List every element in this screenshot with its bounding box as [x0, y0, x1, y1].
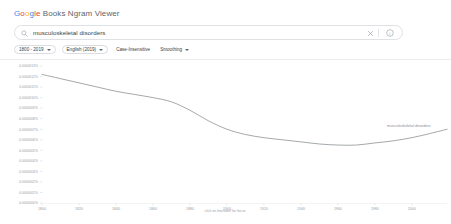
chip-toolbar: 1800 - 2019 English (2019) Case-Insensit…	[14, 45, 191, 54]
x-axis-tick-label: 2000	[408, 207, 416, 211]
y-axis: 0.0000013%0.0000012%0.0000011%0.0000010%…	[19, 64, 43, 205]
chevron-down-icon	[185, 49, 189, 51]
page-title: Google Books Ngram Viewer	[14, 9, 120, 18]
y-axis-tick-label: 0.0000002%	[19, 180, 38, 184]
y-axis-tick-label: 0.0000000%	[19, 201, 38, 205]
x-axis-tick-label: 1840	[112, 207, 120, 211]
series-line[interactable]	[42, 74, 447, 145]
product-name: Books Ngram Viewer	[40, 9, 119, 18]
case-insensitive-toggle[interactable]: Case-Insensitive	[114, 45, 152, 54]
y-axis-tick-label: 0.0000005%	[19, 149, 38, 153]
search-icon	[21, 30, 28, 37]
chart-hint-text: click on line/label for focus	[205, 209, 246, 213]
year-range-select[interactable]: 1800 - 2019	[14, 45, 56, 54]
x-axis-tick-label: 1920	[260, 207, 268, 211]
svg-text:i: i	[389, 31, 391, 36]
smoothing-select[interactable]: Smoothing	[158, 45, 191, 54]
y-axis-tick-label: 0.0000013%	[19, 64, 38, 68]
series-label[interactable]: musculoskeletal disorders	[387, 124, 431, 128]
ngram-viewer-page: Google Books Ngram Viewer musculoskeleta…	[0, 0, 451, 224]
chevron-down-icon	[47, 49, 51, 51]
search-input[interactable]: musculoskeletal disorders	[33, 26, 358, 39]
smoothing-label: Smoothing	[160, 45, 182, 54]
y-axis-tick-label: 0.0000011%	[19, 85, 38, 89]
chevron-down-icon	[99, 49, 103, 51]
corpus-label: English (2019)	[67, 45, 97, 54]
y-axis-tick-label: 0.0000012%	[19, 75, 38, 79]
y-axis-tick-label: 0.0000003%	[19, 170, 38, 174]
y-axis-tick-label: 0.0000006%	[19, 138, 38, 142]
search-divider	[378, 29, 379, 37]
corpus-select[interactable]: English (2019)	[62, 45, 109, 54]
y-axis-tick-label: 0.0000008%	[19, 117, 38, 121]
close-icon[interactable]	[367, 30, 374, 37]
y-axis-tick-label: 0.0000009%	[19, 106, 38, 110]
search-bar[interactable]: musculoskeletal disorders i	[14, 25, 403, 40]
y-axis-tick-label: 0.0000001%	[19, 191, 38, 195]
series-layer[interactable]: musculoskeletal disorders	[42, 74, 447, 145]
y-axis-tick-label: 0.0000007%	[19, 128, 38, 132]
x-axis-tick-label: 1800	[38, 207, 46, 211]
x-axis-tick-label: 1960	[334, 207, 342, 211]
chart-canvas[interactable]: 0.0000013%0.0000012%0.0000011%0.0000010%…	[0, 60, 451, 224]
x-axis-tick-label: 1820	[75, 207, 83, 211]
x-axis-tick-label: 1980	[371, 207, 379, 211]
x-axis-tick-label: 1880	[186, 207, 194, 211]
year-range-label: 1800 - 2019	[19, 45, 44, 54]
x-axis-tick-label: 1940	[297, 207, 305, 211]
case-insensitive-label: Case-Insensitive	[116, 45, 150, 54]
help-circle-icon[interactable]: i	[386, 29, 394, 37]
x-axis-tick-label: 1860	[149, 207, 157, 211]
y-axis-tick-label: 0.0000004%	[19, 159, 38, 163]
ngram-chart[interactable]: 0.0000013%0.0000012%0.0000011%0.0000010%…	[0, 60, 451, 224]
y-axis-tick-label: 0.0000010%	[19, 96, 38, 100]
